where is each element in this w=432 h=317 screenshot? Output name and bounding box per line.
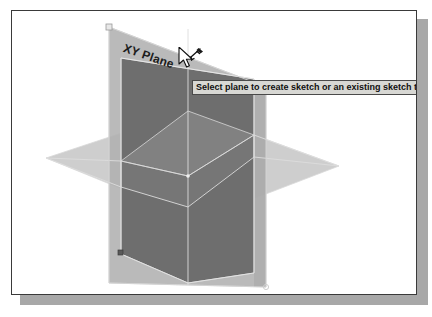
plane-corner-handle-bottom-left[interactable] <box>118 250 123 255</box>
screenshot-root: XY Plane Select plane to create sketch o… <box>0 0 432 317</box>
plane-scene[interactable] <box>12 11 416 294</box>
origin-point[interactable] <box>186 174 190 178</box>
status-tooltip: Select plane to create sketch or an exis… <box>192 80 417 95</box>
plane-corner-handle[interactable] <box>106 24 112 30</box>
status-tooltip-text: Select plane to create sketch or an exis… <box>196 81 417 94</box>
modeling-canvas[interactable]: XY Plane Select plane to create sketch o… <box>11 10 417 295</box>
arrow-cursor-with-sketch-badge <box>178 47 204 71</box>
back-plane-right-wing <box>254 87 266 287</box>
